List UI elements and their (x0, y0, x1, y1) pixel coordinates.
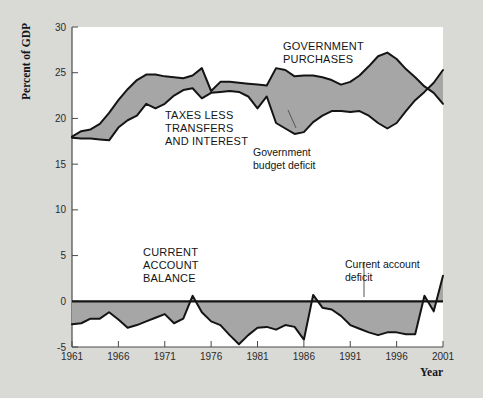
label-taxes-line1: TAXES LESS (165, 109, 233, 121)
callout-ca-deficit-line1: Current account (345, 258, 420, 270)
y-tick-label: 30 (55, 22, 67, 33)
y-tick-label: 0 (60, 296, 66, 307)
y-tick-label: 20 (55, 113, 67, 124)
callout-budget-deficit-line1: Government (253, 146, 311, 158)
callout-ca-deficit-line2: deficit (345, 271, 373, 283)
label-taxes-line3: AND INTEREST (165, 135, 248, 147)
x-tick-label: 1961 (61, 351, 84, 362)
x-tick-label: 1986 (293, 351, 316, 362)
callout-budget-deficit-line2: budget deficit (253, 159, 316, 171)
x-tick-label: 1976 (200, 351, 223, 362)
label-current-account-line3: BALANCE (143, 272, 196, 284)
y-tick-label: 10 (55, 204, 67, 215)
y-tick-label: 5 (60, 250, 66, 261)
x-tick-label: 1971 (154, 351, 177, 362)
y-tick-label: 15 (55, 159, 67, 170)
y-tick-label: 25 (55, 67, 67, 78)
x-tick-label: 1981 (246, 351, 269, 362)
label-government-purchases-line2: PURCHASES (283, 53, 353, 65)
chart-figure: -5051015202530 1961196619711976198119861… (0, 0, 483, 398)
x-tick-label: 2001 (432, 351, 455, 362)
label-government-purchases-line1: GOVERNMENT (283, 40, 364, 52)
label-current-account-line1: CURRENT (143, 246, 198, 258)
x-axis-title: Year (420, 366, 443, 378)
y-axis-title: Percent of GDP (20, 23, 32, 100)
label-taxes-line2: TRANSFERS (165, 122, 233, 134)
x-tick-label: 1966 (107, 351, 130, 362)
x-tick-label: 1991 (339, 351, 362, 362)
label-current-account-line2: ACCOUNT (143, 259, 199, 271)
chart-svg: -5051015202530 1961196619711976198119861… (0, 0, 483, 398)
x-tick-label: 1996 (386, 351, 409, 362)
